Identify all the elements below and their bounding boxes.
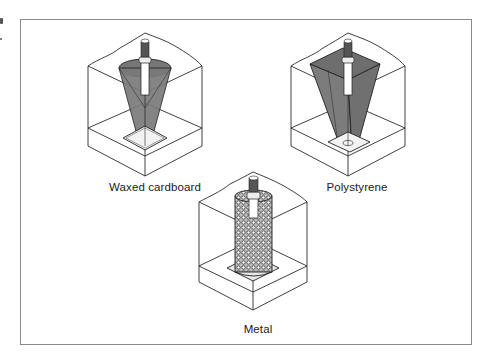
waxed-cardboard-diagram — [85, 28, 215, 178]
polystyrene-diagram — [288, 28, 418, 178]
caption-metal: Metal — [228, 323, 288, 335]
panel-metal — [196, 170, 316, 320]
page-edge-mark — [0, 18, 4, 44]
panel-polystyrene — [288, 28, 418, 178]
caption-waxed-cardboard: Waxed cardboard — [105, 181, 205, 193]
caption-polystyrene: Polystyrene — [317, 181, 397, 193]
metal-diagram — [196, 170, 316, 320]
panel-waxed-cardboard — [85, 28, 215, 178]
